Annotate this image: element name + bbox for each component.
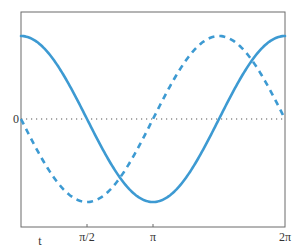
plot-frame <box>21 12 285 227</box>
cos-curve <box>21 36 285 202</box>
chart: 0 π/2 π 2π t <box>0 0 303 252</box>
x-axis-label: t <box>38 234 42 248</box>
neg-sin-curve <box>21 36 285 202</box>
x-tick-label-pi: π <box>150 230 156 244</box>
y-zero-label: 0 <box>13 112 19 126</box>
x-tick-label-pi-half: π/2 <box>79 230 94 244</box>
x-tick-label-two-pi: 2π <box>279 230 291 244</box>
